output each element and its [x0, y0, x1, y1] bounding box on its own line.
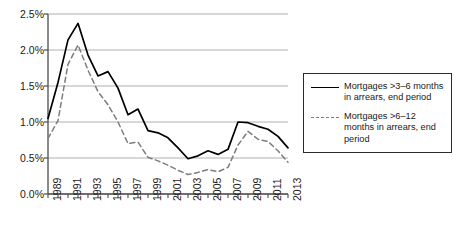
- x-tick-label: 2005: [212, 178, 223, 201]
- legend-entry-mortgages-3-6-months: Mortgages >3–6 months in arrears, end pe…: [311, 81, 445, 104]
- x-tick-label: 2009: [252, 178, 263, 201]
- x-tick-label: 1991: [72, 178, 83, 201]
- chart-legend: Mortgages >3–6 months in arrears, end pe…: [303, 73, 452, 153]
- x-tick-label: 1997: [132, 178, 143, 201]
- x-tick-label: 2007: [232, 178, 243, 201]
- x-tick-label: 1995: [112, 178, 123, 201]
- legend-label-mortgages-3-6-months: Mortgages >3–6 months in arrears, end pe…: [344, 81, 443, 104]
- legend-entry-mortgages-6-12-months: Mortgages >6–12 months in arrears, end p…: [311, 111, 445, 145]
- x-tick-label: 2013: [292, 178, 303, 201]
- mortgage-arrears-line-chart: 0.0%0.5%1.0%1.5%2.0%2.5% 198919911993199…: [0, 0, 465, 243]
- x-tick-label: 2001: [172, 178, 183, 201]
- x-tick-label: 1989: [52, 178, 63, 201]
- solid-line-swatch: [311, 81, 339, 94]
- legend-label-mortgages-6-12-months: Mortgages >6–12 months in arrears, end p…: [344, 111, 436, 145]
- dashed-line-swatch: [311, 111, 339, 124]
- x-tick-label: 1999: [152, 178, 163, 201]
- x-tick-label: 1993: [92, 178, 103, 201]
- x-tick-label: 2003: [192, 178, 203, 201]
- x-tick-label: 2011: [272, 178, 283, 201]
